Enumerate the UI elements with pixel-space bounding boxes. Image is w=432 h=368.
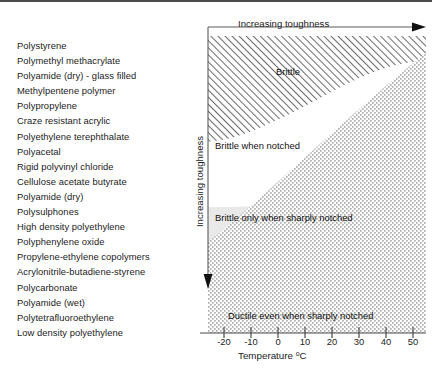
- list-item: Polytetrafluoroethylene: [17, 310, 192, 325]
- list-item: Polypropylene: [17, 98, 192, 113]
- region-label-brittle-when-notched: Brittle when notched: [215, 140, 300, 151]
- list-item: Propylene-ethylene copolymers: [17, 249, 192, 264]
- page-top-divider: [0, 0, 432, 2]
- x-axis-tick-label: -20: [211, 336, 237, 347]
- list-item: Polystyrene: [17, 38, 192, 53]
- list-item: Polyphenylene oxide: [17, 234, 192, 249]
- list-item: Cellulose acetate butyrate: [17, 174, 192, 189]
- list-item: Polyethylene terephthalate: [17, 129, 192, 144]
- region-label-brittle: Brittle: [276, 66, 300, 77]
- list-item: Polyacetal: [17, 144, 192, 159]
- chart-plot-area: [190, 16, 426, 356]
- x-axis-tick-label: 10: [292, 336, 318, 347]
- x-axis-title: Temperature oC: [238, 350, 307, 361]
- list-item: Polymethyl methacrylate: [17, 53, 192, 68]
- y-axis-label: Increasing toughness: [194, 122, 205, 242]
- list-item: Polyamide (dry) - glass filled: [17, 68, 192, 83]
- top-axis-arrow-icon: [412, 23, 426, 32]
- polymer-toughness-list: PolystyrenePolymethyl methacrylatePolyam…: [17, 38, 192, 340]
- list-item: Polyamide (dry): [17, 189, 192, 204]
- x-axis-tick-label: 50: [400, 336, 426, 347]
- list-item: Polycarbonate: [17, 280, 192, 295]
- top-axis-label: Increasing toughness: [238, 18, 329, 29]
- x-axis-tick-label: 40: [373, 336, 399, 347]
- x-axis-tick-label: -10: [238, 336, 264, 347]
- x-axis-tick-label: 0: [265, 336, 291, 347]
- toughness-temperature-chart: Increasing toughness Increasing toughnes…: [190, 16, 426, 356]
- list-item: Craze resistant acrylic: [17, 113, 192, 128]
- list-item: Methylpentene polymer: [17, 83, 192, 98]
- list-item: Low density polyethylene: [17, 325, 192, 340]
- x-axis-title-text: Temperature: [238, 350, 296, 361]
- region-label-brittle-only-when-sharply-notched: Brittle only when sharply notched: [215, 212, 353, 223]
- x-axis-tick-label: 20: [319, 336, 345, 347]
- figure-canvas: PolystyrenePolymethyl methacrylatePolyam…: [0, 0, 432, 368]
- list-item: Polysulphones: [17, 204, 192, 219]
- list-item: High density polyethylene: [17, 219, 192, 234]
- list-item: Acrylonitrile-butadiene-styrene: [17, 264, 192, 279]
- x-axis-unit-letter: C: [300, 350, 307, 361]
- region-label-ductile-even-when-sharply-notched: Ductile even when sharply notched: [228, 310, 373, 321]
- x-axis-tick-label: 30: [346, 336, 372, 347]
- list-item: Rigid polyvinyl chloride: [17, 159, 192, 174]
- list-item: Polyamide (wet): [17, 295, 192, 310]
